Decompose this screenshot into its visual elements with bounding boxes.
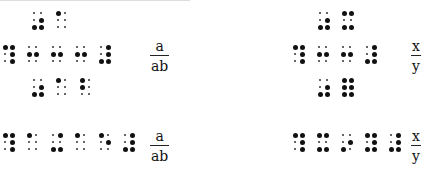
right-panel-row-bottom-braille-cell: [317, 77, 330, 97]
flat-dot-icon: [390, 134, 393, 137]
flat-dot-icon: [326, 12, 329, 15]
flat-dot-icon: [366, 141, 369, 144]
flat-dot-icon: [100, 46, 103, 49]
raised-dot-icon: [372, 140, 377, 145]
flat-dot-icon: [64, 12, 67, 15]
right-panel-linear-braille-cell: [388, 132, 401, 152]
right-panel-linear-braille-cell: [316, 132, 329, 152]
fraction-x-over-y-2: x y: [411, 128, 421, 164]
flat-dot-icon: [318, 60, 321, 63]
flat-dot-icon: [28, 46, 31, 49]
flat-dot-icon: [35, 141, 38, 144]
left-panel-linear-braille-cell: [50, 132, 63, 152]
raised-dot-icon: [300, 133, 305, 138]
right-panel-row-middle-braille-cell: [364, 44, 377, 64]
raised-dot-icon: [293, 45, 298, 50]
raised-dot-icon: [39, 85, 44, 90]
flat-dot-icon: [294, 141, 297, 144]
raised-dot-icon: [342, 25, 347, 30]
raised-dot-icon: [56, 78, 61, 83]
flat-dot-icon: [350, 19, 353, 22]
left-panel-linear-braille-cell: [26, 132, 39, 152]
raised-dot-icon: [372, 147, 377, 152]
raised-dot-icon: [10, 45, 15, 50]
flat-dot-icon: [52, 60, 55, 63]
raised-dot-icon: [10, 140, 15, 145]
raised-dot-icon: [3, 133, 8, 138]
left-panel-row-bottom-braille-cell: [79, 77, 92, 97]
raised-dot-icon: [293, 133, 298, 138]
raised-dot-icon: [130, 140, 135, 145]
raised-dot-icon: [10, 52, 15, 57]
flat-dot-icon: [366, 46, 369, 49]
flat-dot-icon: [28, 148, 31, 151]
flat-dot-icon: [33, 86, 36, 89]
fraction-a-over-ab-2: a ab: [150, 128, 169, 164]
flat-dot-icon: [294, 60, 297, 63]
flat-dot-icon: [319, 19, 322, 22]
flat-dot-icon: [326, 79, 329, 82]
left-panel-row-middle-braille-cell: [50, 44, 63, 64]
raised-dot-icon: [325, 85, 330, 90]
raised-dot-icon: [349, 85, 354, 90]
flat-dot-icon: [57, 86, 60, 89]
right-panel-linear-braille-cell: [340, 132, 353, 152]
numerator: a: [150, 38, 169, 54]
flat-dot-icon: [318, 141, 321, 144]
raised-dot-icon: [123, 147, 128, 152]
flat-dot-icon: [342, 134, 345, 137]
raised-dot-icon: [300, 59, 305, 64]
fraction-bar: [150, 55, 169, 56]
raised-dot-icon: [341, 52, 346, 57]
raised-dot-icon: [80, 85, 85, 90]
fraction-bar: [411, 145, 421, 146]
fraction-bar: [150, 145, 169, 146]
flat-dot-icon: [88, 86, 91, 89]
raised-dot-icon: [396, 140, 401, 145]
flat-dot-icon: [83, 134, 86, 137]
flat-dot-icon: [35, 60, 38, 63]
raised-dot-icon: [349, 92, 354, 97]
flat-dot-icon: [294, 148, 297, 151]
raised-dot-icon: [365, 133, 370, 138]
raised-dot-icon: [75, 52, 80, 57]
raised-dot-icon: [365, 59, 370, 64]
raised-dot-icon: [75, 133, 80, 138]
raised-dot-icon: [342, 85, 347, 90]
flat-dot-icon: [4, 53, 7, 56]
raised-dot-icon: [317, 52, 322, 57]
numerator: x: [411, 128, 421, 144]
raised-dot-icon: [10, 147, 15, 152]
raised-dot-icon: [99, 59, 104, 64]
left-panel-row-top-braille-cell: [31, 10, 44, 30]
left-panel-row-middle-braille-cell: [74, 44, 87, 64]
flat-dot-icon: [342, 46, 345, 49]
right-panel-row-middle-braille-cell: [292, 44, 305, 64]
raised-dot-icon: [51, 147, 56, 152]
raised-dot-icon: [324, 147, 329, 152]
raised-dot-icon: [130, 133, 135, 138]
flat-dot-icon: [33, 19, 36, 22]
left-panel-linear-braille-cell: [2, 132, 15, 152]
raised-dot-icon: [34, 52, 39, 57]
flat-dot-icon: [100, 53, 103, 56]
flat-dot-icon: [349, 60, 352, 63]
flat-dot-icon: [33, 79, 36, 82]
left-panel-row-top-braille-cell: [55, 10, 68, 30]
flat-dot-icon: [40, 12, 43, 15]
flat-dot-icon: [325, 60, 328, 63]
raised-dot-icon: [325, 18, 330, 23]
raised-dot-icon: [342, 78, 347, 83]
flat-dot-icon: [4, 148, 7, 151]
raised-dot-icon: [39, 25, 44, 30]
right-panel-row-top-braille-cell: [317, 10, 330, 30]
flat-dot-icon: [88, 79, 91, 82]
raised-dot-icon: [106, 45, 111, 50]
raised-dot-icon: [317, 133, 322, 138]
flat-dot-icon: [76, 141, 79, 144]
flat-dot-icon: [325, 46, 328, 49]
raised-dot-icon: [325, 25, 330, 30]
flat-dot-icon: [83, 60, 86, 63]
raised-dot-icon: [300, 140, 305, 145]
flat-dot-icon: [88, 93, 91, 96]
